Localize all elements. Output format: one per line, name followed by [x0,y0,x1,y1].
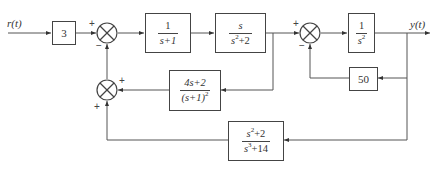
sum2-junction [97,80,117,100]
output-label: y(t) [410,19,425,30]
g3-fraction: 1 s2 [356,20,368,46]
h-inner-value: 50 [358,74,369,85]
g3-denominator: s2 [356,34,368,47]
g2-den-rest: +2 [239,35,250,46]
block-h-inner-50: 50 [349,67,378,91]
sum1-plus-sign: + [89,19,95,29]
block-g2: s s2+2 [215,13,266,53]
g1-fraction: 1 s+1 [158,20,178,46]
g2-fraction: s s2+2 [229,20,252,46]
input-label: r(t) [7,18,22,29]
g1-numerator: 1 [163,20,172,33]
h-mid-numerator: 4s+2 [182,77,208,90]
h-outer-denominator: s3+14 [242,142,270,155]
h-mid-den-exp: 2 [205,90,209,98]
g3-den-exp: 2 [362,33,366,41]
h-outer-num-rest: +2 [254,128,265,139]
sum3-plus-sign: + [293,19,299,29]
gain-value: 3 [61,28,67,39]
sum2-plus-sign-right: + [119,76,125,86]
h-outer-fraction: s2+2 s3+14 [242,128,270,154]
gain-block-3: 3 [52,21,76,45]
g2-denominator: s2+2 [229,34,252,47]
sum1-minus-sign: − [96,41,102,51]
g3-numerator: 1 [357,20,366,33]
block-g1: 1 s+1 [145,13,191,53]
sum2-plus-sign-bottom: + [94,102,100,112]
h-mid-fraction: 4s+2 (s+1)2 [180,77,211,103]
h-outer-den-rest: +14 [252,143,268,154]
h-mid-denominator: (s+1)2 [180,91,211,104]
g2-numerator: s [236,20,244,33]
h-mid-den-base: (s+1) [182,92,205,103]
block-h-mid: 4s+2 (s+1)2 [169,70,221,111]
block-g3: 1 s2 [348,13,375,53]
g1-denominator: s+1 [158,34,178,47]
h-outer-numerator: s2+2 [245,128,268,141]
block-h-outer: s2+2 s3+14 [228,121,284,161]
sum3-minus-sign: − [299,41,305,51]
